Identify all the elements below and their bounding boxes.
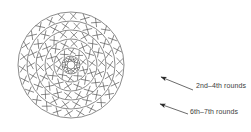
- stitch-mark: [34, 39, 43, 48]
- stitch-mark: [67, 75, 74, 81]
- stitch-mark: [61, 22, 69, 30]
- stitch-mark: [65, 92, 72, 99]
- stitch-mark: [63, 65, 67, 69]
- stitch-mark: [76, 109, 84, 117]
- stitch-mark: [64, 82, 72, 89]
- stitch-mark: [51, 97, 59, 105]
- stitch-mark: [79, 43, 87, 51]
- stitch-mark: [70, 13, 76, 19]
- ring-circle-6: [18, 12, 124, 118]
- stitch-mark: [80, 14, 89, 22]
- stitch-mark: [36, 22, 45, 31]
- stitch-mark: [21, 76, 29, 84]
- stitch-mark: [51, 25, 59, 33]
- stitch-mark: [105, 72, 113, 80]
- stitch-mark: [20, 53, 27, 60]
- stitch-mark: [70, 40, 78, 47]
- stitch-mark: [71, 32, 78, 38]
- stitch-mark: [60, 31, 67, 38]
- stitch-mark: [46, 63, 53, 70]
- stitch-mark: [74, 23, 80, 29]
- stitch-marks-layer: [19, 13, 123, 117]
- stitch-mark: [117, 58, 123, 65]
- stitch-mark: [56, 64, 63, 71]
- stitch-mark: [107, 61, 114, 69]
- stitch-mark: [114, 46, 122, 54]
- annotation-arrow-lower: [160, 104, 188, 114]
- stitch-mark: [105, 50, 112, 58]
- stitch-mark: [72, 100, 80, 108]
- stitch-mark: [29, 50, 37, 58]
- stitch-mark: [37, 64, 43, 71]
- stitch-mark: [61, 101, 69, 108]
- figure-canvas: 2nd–4th rounds 6th–7th rounds: [0, 0, 251, 132]
- stitch-mark: [116, 70, 122, 77]
- stitch-mark: [98, 59, 105, 67]
- stitch-mark: [58, 14, 65, 20]
- stitch-mark: [43, 43, 51, 52]
- stitch-mark: [53, 107, 61, 115]
- annotation-arrow-upper: [161, 77, 193, 90]
- stitch-mark: [111, 80, 119, 88]
- stitch-mark: [51, 44, 60, 53]
- stitch-mark: [56, 57, 63, 64]
- stitch-mark: [87, 105, 95, 113]
- stitch-mark: [28, 31, 37, 40]
- stitch-mark: [42, 102, 51, 111]
- stitch-mark: [89, 60, 96, 66]
- annotation-label-lower: 6th–7th rounds: [190, 108, 238, 115]
- ring-circle-3: [45, 39, 97, 91]
- stitch-mark: [41, 90, 50, 99]
- stitch-mark: [47, 17, 54, 25]
- concentric-rings: [18, 12, 124, 118]
- stitch-mark: [74, 82, 82, 90]
- stitch-mark: [30, 73, 37, 80]
- annotation-label-upper: 2nd–4th rounds: [196, 82, 246, 89]
- stitch-mark: [75, 91, 83, 98]
- stitch-mark: [19, 65, 26, 72]
- stitch-mark: [87, 69, 95, 77]
- stitch-mark: [80, 59, 86, 65]
- stitch-mark: [71, 69, 75, 73]
- stitch-mark: [68, 49, 75, 55]
- stitch-mark: [96, 69, 104, 77]
- stitch-mark: [65, 110, 73, 117]
- stitch-mark: [60, 41, 69, 49]
- stitch-mark: [91, 18, 100, 27]
- stitch-mark: [27, 61, 34, 69]
